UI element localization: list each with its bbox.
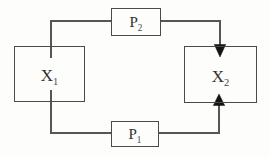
node-p2-label-base: P bbox=[130, 14, 138, 30]
node-x1-label: X1 bbox=[41, 67, 59, 84]
edge-p1-to-x2 bbox=[159, 105, 219, 133]
node-x1-label-subscript: 1 bbox=[53, 76, 58, 87]
node-p1-box: P1 bbox=[111, 121, 159, 147]
node-x2-label: X2 bbox=[212, 68, 230, 85]
node-p2-box: P2 bbox=[111, 8, 161, 36]
node-x2-label-base: X bbox=[212, 67, 224, 86]
node-p1-label-base: P bbox=[129, 126, 137, 142]
diagram-canvas: X1 X2 P2 P1 bbox=[0, 0, 269, 157]
node-p1-label-subscript: 1 bbox=[137, 135, 142, 145]
node-p2-label-subscript: 2 bbox=[138, 23, 143, 33]
node-x2-box: X2 bbox=[184, 46, 257, 103]
node-x1-label-base: X bbox=[41, 66, 53, 85]
edge-p2-to-x2 bbox=[161, 21, 220, 45]
node-x1-box: X1 bbox=[14, 46, 85, 102]
node-p1-label: P1 bbox=[129, 127, 142, 142]
node-p2-label: P2 bbox=[130, 15, 143, 30]
node-x2-label-subscript: 2 bbox=[224, 77, 229, 88]
